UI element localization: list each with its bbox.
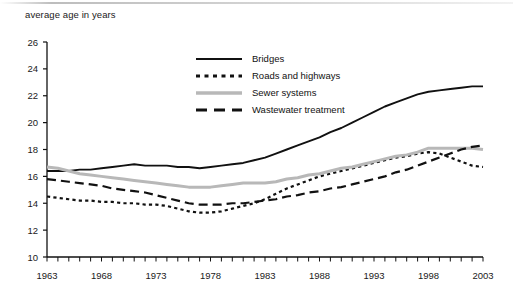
legend-label: Roads and highways: [252, 70, 340, 81]
y-tick-label: 26: [27, 37, 38, 48]
line-chart-plot: 101214161820222426 196319681973197819831…: [0, 0, 513, 303]
y-tick-label: 16: [27, 171, 38, 182]
y-tick-label: 22: [27, 90, 38, 101]
dotted-line-icon: [196, 69, 242, 83]
series-line-wastewater-treatment: [47, 145, 483, 204]
x-tick-label: 1973: [145, 270, 166, 281]
x-tick-label: 1978: [200, 270, 221, 281]
y-tick-label: 24: [27, 63, 38, 74]
legend-label: Sewer systems: [252, 87, 316, 98]
y-tick-label: 12: [27, 225, 38, 236]
y-tick-label: 18: [27, 144, 38, 155]
x-tick-label: 1968: [91, 270, 112, 281]
x-axis: 196319681973197819831988199319982003: [36, 257, 493, 281]
y-tick-label: 20: [27, 117, 38, 128]
chart-container: average age in years 101214161820222426 …: [0, 0, 513, 303]
x-tick-label: 2003: [472, 270, 493, 281]
y-axis: 101214161820222426: [27, 37, 47, 263]
series-line-bridges: [47, 86, 483, 171]
x-tick-label: 1988: [309, 270, 330, 281]
y-tick-label: 14: [27, 198, 38, 209]
legend-label: Wastewater treatment: [252, 104, 345, 115]
dashed-line-icon: [196, 103, 242, 117]
x-tick-label: 1993: [363, 270, 384, 281]
x-tick-label: 1983: [254, 270, 275, 281]
y-tick-label: 10: [27, 252, 38, 263]
solid-line-icon: [196, 52, 242, 66]
x-tick-label: 1963: [36, 270, 57, 281]
x-tick-label: 1998: [418, 270, 439, 281]
gray-solid-line-icon: [196, 86, 242, 100]
legend-label: Bridges: [252, 53, 284, 64]
